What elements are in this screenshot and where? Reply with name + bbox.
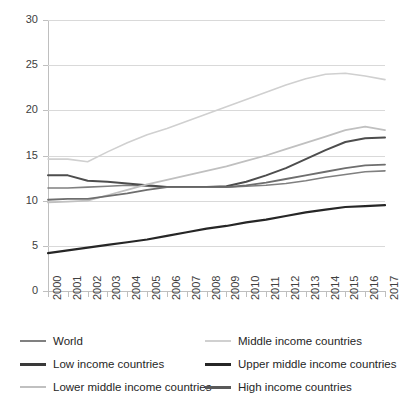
series-line	[48, 127, 385, 203]
legend-label: Lower middle income countries	[53, 381, 212, 393]
legend-item[interactable]: Low income countries	[20, 354, 164, 374]
legend-color-swatch	[205, 363, 231, 366]
series-line	[48, 205, 385, 253]
legend-item[interactable]: Lower middle income countries	[20, 377, 212, 397]
series-line	[48, 171, 385, 188]
legend-item[interactable]: Middle income countries	[205, 331, 362, 351]
legend-color-swatch	[20, 340, 46, 342]
legend-item[interactable]: World	[20, 331, 83, 351]
legend-label: World	[53, 335, 83, 347]
legend-color-swatch	[205, 386, 231, 389]
chart-container: 051015202530 200020012002200320042005200…	[0, 0, 408, 403]
series-line	[48, 137, 385, 187]
legend-color-swatch	[20, 386, 46, 388]
legend-label: Upper middle income countries	[238, 358, 397, 370]
legend-label: Middle income countries	[238, 335, 362, 347]
legend-item[interactable]: Upper middle income countries	[205, 354, 397, 374]
legend-label: Low income countries	[53, 358, 164, 370]
legend-color-swatch	[205, 340, 231, 342]
legend-label: High income countries	[238, 381, 352, 393]
legend-item[interactable]: High income countries	[205, 377, 352, 397]
series-line	[48, 73, 385, 162]
chart-legend: WorldMiddle income countriesLow income c…	[20, 331, 400, 397]
legend-color-swatch	[20, 363, 46, 366]
